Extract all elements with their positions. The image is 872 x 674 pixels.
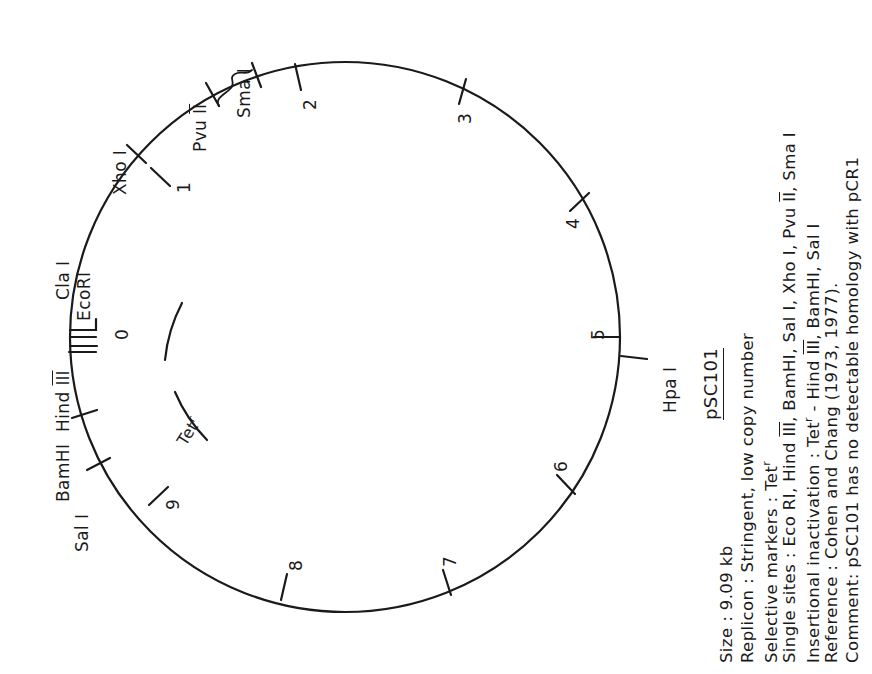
tick-3 — [459, 79, 466, 104]
desc-key-reference: Reference — [822, 576, 841, 663]
plasmid-title: pSC101 — [700, 348, 724, 420]
desc-sep-reference: : — [822, 559, 841, 576]
tick-label-9: 9 — [163, 499, 183, 510]
site-label-hind-iii-roman: III — [53, 370, 73, 385]
tick-label-7: 7 — [440, 556, 460, 567]
tet-r-arc-upper — [165, 303, 182, 360]
desc-line-comment: Comment: pSC101 has no detectable homolo… — [845, 157, 862, 663]
desc-roman-1-insertional-inactivation: III — [804, 340, 823, 355]
tick-label-5: 5 — [588, 329, 608, 340]
desc-value-reference: Cohen and Chang (1973, 1977). — [822, 282, 841, 559]
site-label-hind-iii-base: Hind — [53, 386, 73, 432]
desc-part-b-single-sites: , BamHI, Sal I, Xho I, Pvu — [780, 202, 799, 422]
site-label-hpa-i: Hpa I — [660, 367, 680, 413]
site-label-pvu-ii: Pvu II — [190, 104, 210, 152]
desc-value-replicon: Stringent, low copy number — [738, 333, 757, 573]
desc-line-single-sites: Single sites : Eco RI, Hind III, BamHI, … — [782, 132, 799, 663]
desc-part-a-single-sites: Eco RI, Hind — [780, 437, 799, 547]
desc-line-replicon: Replicon : Stringent, low copy number — [740, 333, 757, 663]
desc-line-reference: Reference : Cohen and Chang (1973, 1977)… — [824, 282, 841, 663]
desc-value-size: 9.09 kb — [717, 545, 736, 610]
plasmid-map-figure: 0 1 2 3 4 5 6 7 8 9 Cla I EcoRI Hind III… — [0, 0, 872, 674]
desc-sup-insertional-inactivation: r — [802, 417, 815, 422]
tick-label-4: 4 — [563, 218, 583, 229]
tick-label-8: 8 — [286, 560, 306, 571]
site-label-pvu-ii-roman: II — [190, 104, 210, 114]
tick-2 — [295, 64, 301, 90]
desc-part-a-insertional-inactivation: Tet — [804, 422, 823, 447]
desc-sep-comment: : — [843, 568, 862, 580]
site-label-hind-iii: Hind III — [53, 370, 73, 432]
desc-value-comment: pSC101 has no detectable homology with p… — [843, 157, 862, 568]
tick-label-6: 6 — [551, 461, 571, 472]
desc-part-c-insertional-inactivation: , BamHI, Sal I — [804, 223, 823, 340]
desc-sep-size: : — [717, 610, 736, 627]
tick-marks — [70, 64, 620, 600]
desc-line-size: Size : 9.09 kb — [719, 545, 736, 663]
desc-key-single-sites: Single sites — [780, 564, 799, 663]
plasmid-backbone-circle — [70, 62, 620, 612]
tick-8 — [281, 574, 287, 600]
desc-part-b-insertional-inactivation: - Hind — [804, 354, 823, 417]
site-label-sal-i: Sal I — [72, 514, 92, 552]
tick-label-2: 2 — [300, 99, 320, 110]
restriction-site-ticks — [69, 63, 647, 470]
desc-part-c-single-sites: , Sma I — [780, 132, 799, 192]
desc-key-selective-markers: Selective markers — [762, 508, 781, 663]
desc-value-selective-markers: Tet — [762, 466, 781, 491]
desc-sep-selective-markers: : — [762, 491, 781, 508]
desc-roman-1-single-sites: III — [780, 422, 799, 437]
desc-key-replicon: Replicon — [738, 590, 757, 663]
site-label-cla-i: Cla I — [53, 261, 73, 300]
desc-key-comment: Comment — [843, 579, 862, 663]
tick-1 — [151, 168, 170, 186]
desc-key-size: Size — [717, 628, 736, 663]
desc-roman-2-single-sites: II — [780, 192, 799, 202]
site-label-eco-ri: EcoRI — [74, 272, 94, 321]
desc-sep-single-sites: : — [780, 547, 799, 564]
desc-sep-replicon: : — [738, 572, 757, 589]
desc-line-insertional-inactivation: Insertional inactivation : Tetr - Hind I… — [803, 223, 822, 663]
site-label-bam-hi: BamHI — [53, 444, 73, 502]
tick-label-0: 0 — [112, 329, 132, 340]
site-label-xho-i: Xho I — [110, 150, 130, 195]
tick-label-1: 1 — [174, 182, 194, 193]
tick-bam-hi — [72, 410, 97, 418]
tick-hpa-i — [621, 356, 647, 359]
site-label-pvu-ii-base: Pvu — [190, 114, 210, 152]
desc-key-insertional-inactivation: Insertional inactivation — [804, 464, 823, 663]
tick-6 — [557, 475, 575, 494]
desc-sep-insertional-inactivation: : — [804, 447, 823, 464]
tick-label-3: 3 — [455, 113, 475, 124]
desc-line-selective-markers: Selective markers : Tetr — [761, 461, 780, 663]
site-label-sma-i: Sma I — [234, 68, 254, 118]
desc-sup-selective-markers: r — [760, 461, 773, 466]
tick-4 — [570, 193, 589, 211]
